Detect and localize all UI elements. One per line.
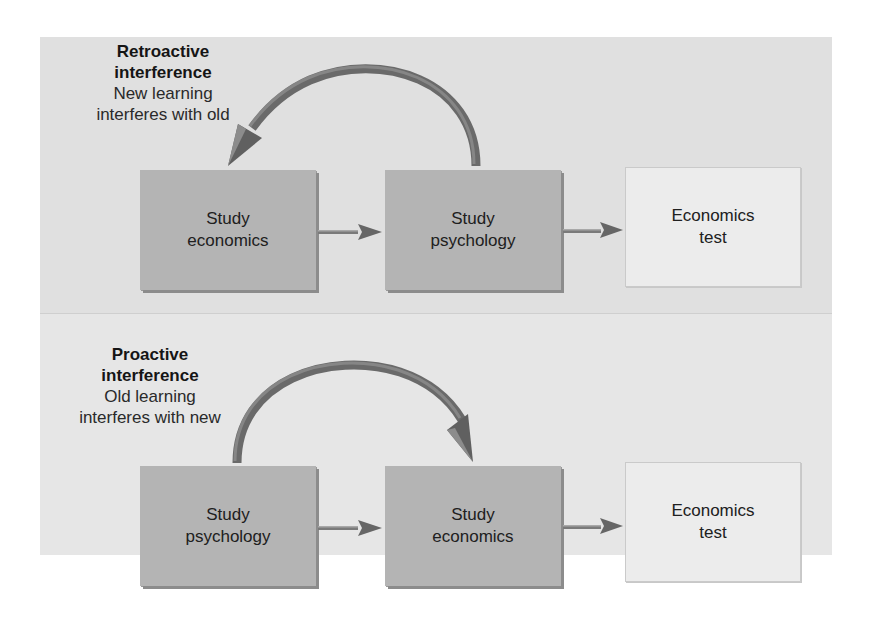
box-line: psychology bbox=[185, 526, 270, 548]
box-line: Economics bbox=[671, 500, 754, 522]
retroactive-desc-2: interferes with old bbox=[70, 104, 256, 125]
proactive-title-2: interference bbox=[62, 365, 238, 386]
pro-box-economics-test: Economicstest bbox=[625, 462, 801, 582]
box-line: psychology bbox=[430, 230, 515, 252]
box-line: Study bbox=[185, 504, 270, 526]
box-line: economics bbox=[432, 526, 513, 548]
box-line: test bbox=[671, 522, 754, 544]
pro-box-study-psychology: Studypsychology bbox=[140, 466, 316, 586]
retroactive-title-2: interference bbox=[70, 62, 256, 83]
box-line: Study bbox=[432, 504, 513, 526]
box-line: Economics bbox=[671, 205, 754, 227]
retroactive-desc: New learning bbox=[70, 83, 256, 104]
box-line: Study bbox=[430, 208, 515, 230]
box-line: economics bbox=[187, 230, 268, 252]
retro-box-study-psychology: Studypsychology bbox=[385, 170, 561, 290]
retroactive-title: Retroactive bbox=[70, 41, 256, 62]
box-line: Study bbox=[187, 208, 268, 230]
proactive-title: Proactive bbox=[62, 344, 238, 365]
retro-box-economics-test: Economicstest bbox=[625, 167, 801, 287]
retro-box-study-economics: Studyeconomics bbox=[140, 170, 316, 290]
box-line: test bbox=[671, 227, 754, 249]
pro-box-study-economics: Studyeconomics bbox=[385, 466, 561, 586]
retroactive-label: Retroactive interference New learning in… bbox=[70, 41, 256, 125]
proactive-desc-2: interferes with new bbox=[62, 407, 238, 428]
cutoff-caption bbox=[0, 0, 896, 5]
proactive-desc: Old learning bbox=[62, 386, 238, 407]
proactive-label: Proactive interference Old learning inte… bbox=[62, 344, 238, 428]
